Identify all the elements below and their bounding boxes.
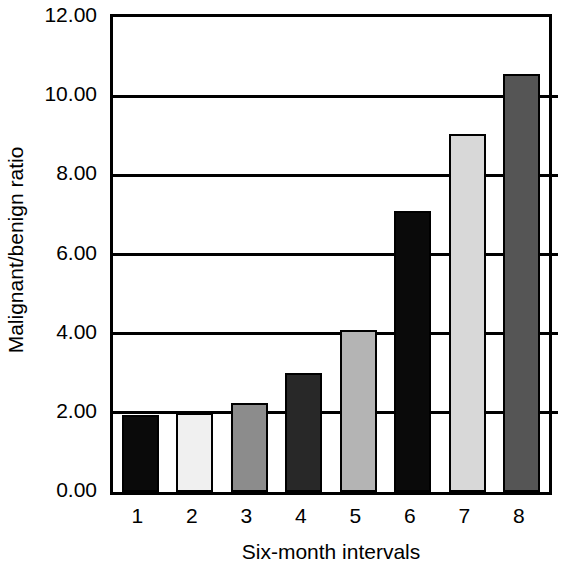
y-tick-label-8: 8.00 <box>7 162 97 183</box>
x-axis-title: Six-month intervals <box>110 541 552 562</box>
bar-7 <box>449 134 486 492</box>
bars-group <box>113 17 549 492</box>
bar-3 <box>231 403 268 492</box>
x-tick-label-7: 7 <box>434 505 494 526</box>
right-tick-8 <box>549 174 558 177</box>
x-tick-label-5: 5 <box>325 505 385 526</box>
bar-chart-figure: Malignant/benign ratio 12.00 10.00 8.00 … <box>0 0 566 573</box>
x-tick-label-3: 3 <box>216 505 276 526</box>
right-tick-6 <box>549 253 558 256</box>
y-tick-label-0: 0.00 <box>7 479 97 500</box>
bar-1 <box>122 415 159 492</box>
y-tick-label-4: 4.00 <box>7 320 97 341</box>
x-tick-label-4: 4 <box>271 505 331 526</box>
right-tick-2 <box>549 411 558 414</box>
x-tick-label-1: 1 <box>107 505 167 526</box>
bar-5 <box>340 330 377 492</box>
x-tick-label-2: 2 <box>162 505 222 526</box>
right-tick-10 <box>549 95 558 98</box>
y-tick-label-12: 12.00 <box>7 4 97 25</box>
y-tick-label-10: 10.00 <box>7 83 97 104</box>
bar-8 <box>503 74 540 492</box>
x-tick-label-6: 6 <box>380 505 440 526</box>
y-tick-label-6: 6.00 <box>7 241 97 262</box>
right-tick-4 <box>549 332 558 335</box>
plot-area <box>110 14 552 495</box>
x-tick-label-8: 8 <box>489 505 549 526</box>
y-tick-label-2: 2.00 <box>7 399 97 420</box>
bar-2 <box>176 413 213 492</box>
bar-4 <box>285 373 322 492</box>
bar-6 <box>394 211 431 492</box>
